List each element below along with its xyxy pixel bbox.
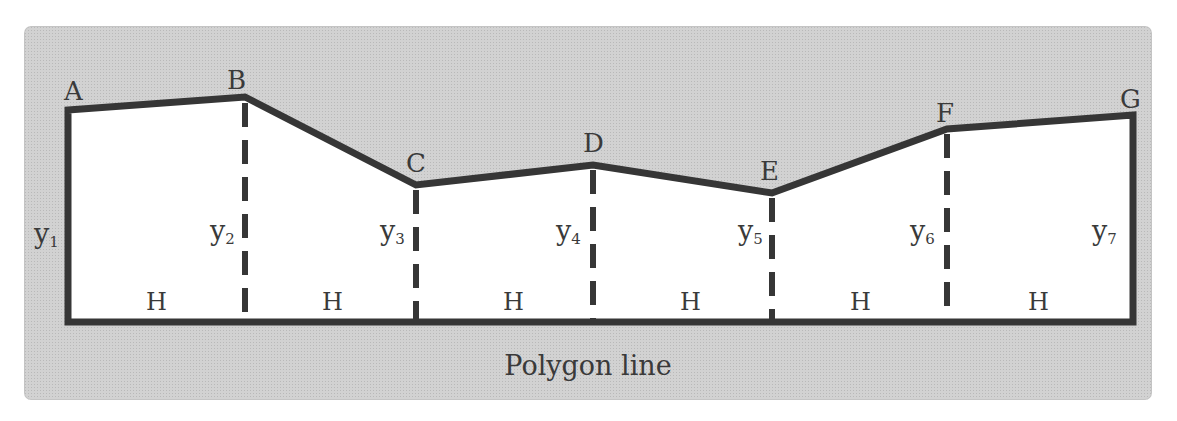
- spacing-label: H: [503, 288, 524, 316]
- figure-caption: Polygon line: [504, 350, 671, 381]
- point-label-g: G: [1120, 84, 1141, 114]
- point-label-c: C: [406, 148, 426, 178]
- ordinate-label-y1: y1: [33, 218, 59, 251]
- point-label-e: E: [760, 156, 779, 186]
- point-label-d: D: [583, 128, 604, 158]
- spacing-label: H: [680, 288, 701, 316]
- point-label-f: F: [936, 98, 954, 128]
- spacing-label: H: [850, 288, 871, 316]
- polygon-line-diagram: A B C D E F G y1 y2 y3 y4 y5 y6 y7 H H H…: [0, 0, 1177, 421]
- point-label-a: A: [63, 76, 84, 106]
- spacing-label: H: [146, 288, 167, 316]
- spacing-label: H: [1028, 288, 1049, 316]
- point-label-b: B: [227, 65, 246, 95]
- spacing-label: H: [322, 288, 343, 316]
